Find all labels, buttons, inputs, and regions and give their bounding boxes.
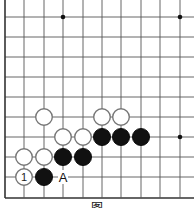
black-stone [112,128,129,145]
white-stone [94,109,111,126]
star-point-icon [178,135,183,140]
star-point-icon [178,15,183,20]
black-stone [132,128,149,145]
black-stone [35,168,52,185]
white-stone [55,129,72,146]
point-label-marker: A [59,170,68,185]
white-stone [75,129,92,146]
black-stone [74,148,91,165]
go-board: 1 A [0,0,194,208]
diagram-caption: 图 [0,201,194,208]
star-point-icon [61,15,66,20]
white-stone [113,109,130,126]
white-stone [36,149,53,166]
board-grid [5,0,194,198]
markers: A [58,170,68,185]
white-stone [16,149,33,166]
black-stone [54,148,71,165]
white-stone [36,109,53,126]
black-stone [93,128,110,145]
stone-move-number: 1 [21,171,27,183]
